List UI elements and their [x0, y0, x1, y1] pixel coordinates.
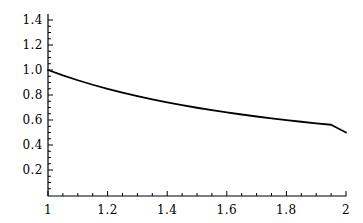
- y-tick-label: 0.6: [22, 114, 43, 126]
- x-tick-label: 1: [44, 204, 52, 216]
- y-tick-label: 1.4: [22, 14, 43, 26]
- axes-group: [48, 14, 347, 196]
- y-tick-label: 1.0: [22, 64, 43, 76]
- x-tick-label: 1.8: [276, 204, 297, 216]
- y-tick-label: 0.8: [22, 89, 43, 101]
- x-tick-label: 2: [342, 204, 350, 216]
- plot-figure: 1.41.21.00.80.60.40.2 11.21.41.61.82: [0, 0, 363, 223]
- y-tick-label: 1.2: [22, 39, 43, 51]
- x-tick-label: 1.2: [97, 204, 118, 216]
- data-series-curve: [48, 70, 346, 133]
- plot-canvas: [0, 0, 363, 223]
- x-tick-label: 1.4: [157, 204, 178, 216]
- y-tick-label: 0.4: [22, 139, 43, 151]
- data-curve-group: [48, 70, 346, 133]
- y-tick-label: 0.2: [22, 164, 43, 176]
- x-tick-label: 1.6: [217, 204, 238, 216]
